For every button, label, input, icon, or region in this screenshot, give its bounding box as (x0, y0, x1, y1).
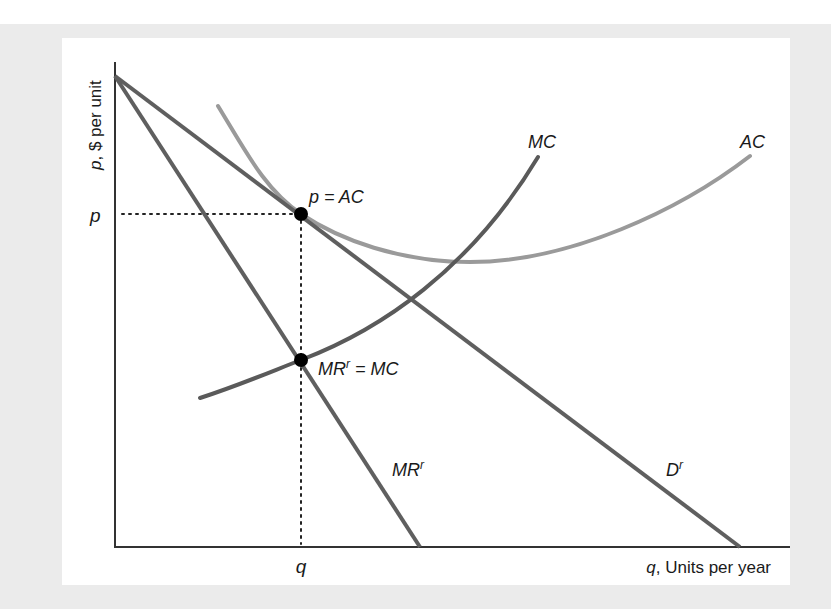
ac-curve (218, 106, 750, 262)
ac-label: AC (739, 132, 766, 152)
intersection-label: MRr = MC (318, 357, 400, 379)
x-axis-label: q, Units per year (646, 558, 771, 577)
price-tick-label: p (89, 205, 101, 226)
tangency-point (294, 207, 308, 221)
quantity-tick-label: q (296, 556, 307, 577)
demand-label: Dr (666, 458, 684, 480)
monopolistic-competition-diagram: p, $ per unit q, Units per year p q MC A… (0, 0, 831, 609)
mr-mc-intersection-point (294, 353, 308, 367)
mc-label: MC (528, 132, 557, 152)
tangency-label: p = AC (308, 187, 365, 207)
mr-label: MRr (392, 458, 425, 480)
y-axis-label: p, $ per unit (86, 80, 105, 171)
marginal-revenue-curve (115, 76, 420, 547)
demand-curve (115, 76, 740, 547)
